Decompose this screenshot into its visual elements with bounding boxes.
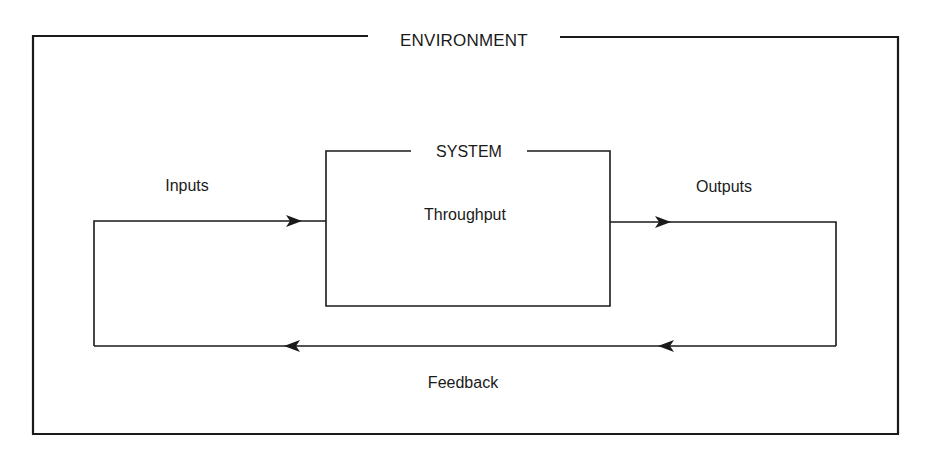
- system-box: [326, 151, 610, 306]
- system-border: [326, 151, 610, 306]
- throughput-label: Throughput: [424, 207, 506, 223]
- feedback-label: Feedback: [428, 375, 498, 391]
- output-flow: [610, 216, 836, 346]
- output-line: [610, 222, 836, 346]
- system-label: SYSTEM: [436, 144, 502, 160]
- outputs-label: Outputs: [696, 179, 752, 195]
- inputs-label: Inputs: [165, 178, 209, 194]
- input-flow: [94, 215, 326, 346]
- environment-label: ENVIRONMENT: [400, 32, 528, 49]
- input-line: [94, 221, 326, 346]
- feedback-flow: [94, 340, 836, 352]
